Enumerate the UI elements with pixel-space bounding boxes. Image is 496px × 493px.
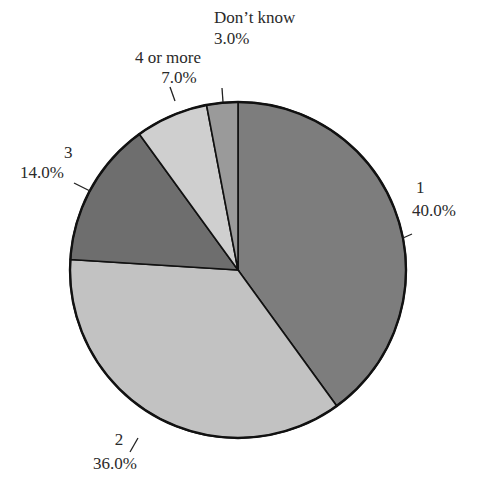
- label-4-or-more: 4 or more 7.0%: [118, 48, 218, 88]
- label-3-pct: 14.0%: [20, 163, 73, 183]
- label-5-pct: 3.0%: [214, 29, 295, 49]
- label-2-name: 2: [70, 430, 160, 450]
- label-1-name: 1: [412, 178, 456, 198]
- label-3-name: 3: [20, 143, 73, 163]
- label-2-pct: 36.0%: [70, 454, 160, 474]
- leader-line-5: [222, 88, 223, 102]
- label-1: 1 40.0%: [412, 178, 456, 221]
- pie-chart: [0, 0, 496, 493]
- leader-line-1: [403, 234, 412, 238]
- label-4-name: 4 or more: [118, 48, 218, 68]
- label-dont-know: Don’t know 3.0%: [214, 8, 295, 49]
- label-2: 2 36.0%: [70, 430, 160, 474]
- leader-line-3: [74, 183, 90, 191]
- label-3: 3 14.0%: [20, 143, 73, 183]
- leader-line-4: [170, 87, 175, 101]
- label-5-name: Don’t know: [214, 8, 295, 28]
- label-4-pct: 7.0%: [118, 68, 218, 88]
- label-1-pct: 40.0%: [412, 201, 456, 221]
